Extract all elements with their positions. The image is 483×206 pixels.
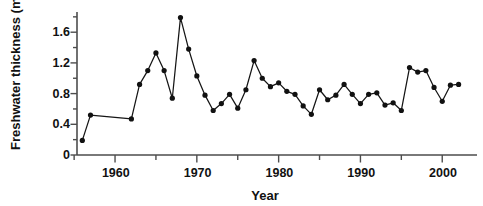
data-point [407, 65, 412, 70]
x-tick-label-4: 2000 [429, 166, 457, 180]
y-axis-ticks [71, 17, 78, 155]
data-point [309, 112, 314, 117]
data-point [415, 70, 420, 75]
data-point [399, 108, 404, 113]
data-point [333, 93, 338, 98]
data-point [292, 92, 297, 97]
data-point [227, 92, 232, 97]
y-tick-label-0: 0 [63, 148, 70, 162]
data-point [391, 100, 396, 105]
data-point [219, 101, 224, 106]
x-tick-label-3: 1990 [347, 166, 375, 180]
data-point [145, 68, 150, 73]
y-tick-label-2: 0.8 [53, 87, 70, 101]
data-point [194, 73, 199, 78]
data-point [80, 138, 85, 143]
data-point [317, 87, 322, 92]
data-point [341, 82, 346, 87]
data-point [243, 87, 248, 92]
data-point [178, 15, 183, 20]
data-point [366, 92, 371, 97]
data-point [440, 99, 445, 104]
data-point [268, 84, 273, 89]
chart-figure: Freshwater thickness (m) Year 0 0.4 0.8 … [0, 0, 483, 206]
data-point [325, 97, 330, 102]
data-point [170, 96, 175, 101]
data-point [431, 85, 436, 90]
data-point [382, 103, 387, 108]
data-point [129, 116, 134, 121]
data-point [284, 89, 289, 94]
y-tick-labels: 0 0.4 0.8 1.2 1.6 [53, 25, 70, 162]
data-point [153, 50, 158, 55]
y-tick-label-4: 1.6 [53, 25, 70, 39]
data-point [186, 46, 191, 51]
data-point [260, 76, 265, 81]
x-tick-label-0: 1960 [102, 166, 130, 180]
data-points-freshwater-thickness [80, 15, 461, 143]
y-tick-label-1: 0.4 [53, 117, 70, 131]
data-point [88, 112, 93, 117]
x-tick-label-1: 1970 [184, 166, 212, 180]
x-tick-labels: 1960 1970 1980 1990 2000 [102, 166, 457, 180]
line-chart: Freshwater thickness (m) Year 0 0.4 0.8 … [0, 0, 483, 206]
data-point [456, 82, 461, 87]
data-point [276, 80, 281, 85]
x-axis-label: Year [251, 188, 278, 203]
data-line-freshwater-thickness [82, 18, 458, 141]
data-point [252, 58, 257, 63]
data-point [423, 68, 428, 73]
data-point [358, 101, 363, 106]
y-tick-label-3: 1.2 [53, 56, 70, 70]
data-point [137, 82, 142, 87]
data-point [350, 92, 355, 97]
data-point [162, 68, 167, 73]
x-tick-label-2: 1980 [265, 166, 293, 180]
data-point [235, 106, 240, 111]
data-point [211, 108, 216, 113]
data-point [374, 90, 379, 95]
data-point [448, 83, 453, 88]
data-point [301, 103, 306, 108]
y-axis-label: Freshwater thickness (m) [8, 0, 23, 150]
x-axis-ticks [74, 155, 442, 163]
data-point [202, 93, 207, 98]
